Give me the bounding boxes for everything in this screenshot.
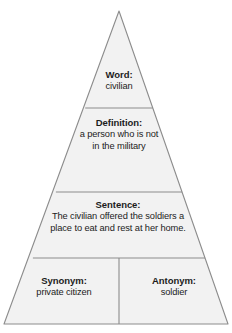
tier-word-title: Word: — [61, 69, 177, 80]
tier-sentence-line-1: The civilian offered the soldiers a — [16, 211, 220, 222]
tier-antonym-title: Antonym: — [122, 275, 226, 286]
tier-synonym: Synonym: private citizen — [12, 275, 116, 299]
tier-definition-title: Definition: — [40, 117, 198, 128]
tier-definition-line-2: in the military — [40, 141, 198, 152]
tier-definition-line-1: a person who is not — [40, 129, 198, 140]
tier-sentence-line-2: place to eat and rest at her home. — [16, 223, 220, 234]
tier-synonym-title: Synonym: — [12, 275, 116, 286]
vocabulary-pyramid-diagram: Word: civilian Definition: a person who … — [0, 0, 232, 333]
tier-word-value: civilian — [61, 81, 177, 92]
tier-antonym-value: soldier — [122, 287, 226, 298]
tier-word: Word: civilian — [61, 69, 177, 93]
tier-definition: Definition: a person who is not in the m… — [40, 117, 198, 152]
tier-sentence: Sentence: The civilian offered the soldi… — [16, 199, 220, 234]
tier-antonym: Antonym: soldier — [122, 275, 226, 299]
tier-synonym-value: private citizen — [12, 287, 116, 298]
tier-sentence-title: Sentence: — [16, 199, 220, 210]
